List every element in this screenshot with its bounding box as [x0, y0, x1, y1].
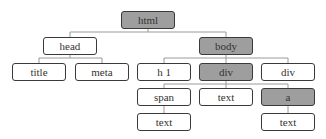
- dom-tree-diagram: html head body title meta h 1 div div sp…: [0, 0, 326, 139]
- node-label: a: [286, 92, 291, 103]
- node-label: body: [215, 41, 237, 52]
- node-label: div: [219, 67, 233, 78]
- node-span: span: [137, 88, 191, 106]
- node-text-span: text: [137, 113, 191, 131]
- node-label: head: [60, 41, 81, 52]
- figure-caption: [70, 133, 270, 139]
- node-html: html: [121, 11, 175, 29]
- node-label: h 1: [157, 67, 171, 78]
- node-label: meta: [91, 67, 112, 78]
- node-label: text: [156, 117, 173, 128]
- node-label: div: [281, 67, 295, 78]
- node-text: text: [199, 88, 253, 106]
- node-label: text: [218, 92, 235, 103]
- node-h1: h 1: [137, 63, 191, 81]
- node-body: body: [199, 37, 253, 55]
- node-label: text: [280, 117, 297, 128]
- node-label: html: [138, 15, 158, 26]
- node-title: title: [12, 63, 66, 81]
- node-div-highlighted: div: [199, 63, 253, 81]
- node-label: title: [30, 67, 47, 78]
- node-div: div: [261, 63, 315, 81]
- node-a: a: [261, 88, 315, 106]
- node-meta: meta: [75, 63, 129, 81]
- node-text-a: text: [261, 113, 315, 131]
- node-label: span: [154, 92, 174, 103]
- node-head: head: [43, 37, 97, 55]
